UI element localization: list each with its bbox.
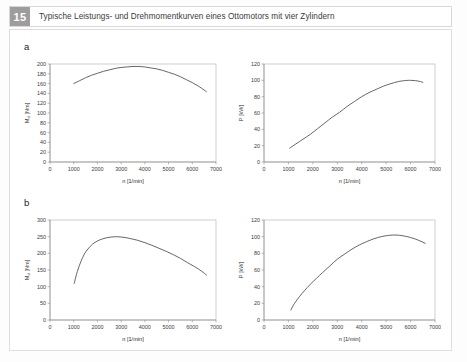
y-tick-label: 60: [40, 130, 46, 136]
y-tick-label: 80: [254, 94, 260, 100]
y-tick-label: 80: [254, 250, 260, 256]
y-axis-label: P [kW]: [238, 261, 244, 278]
panel-a-label: a: [24, 41, 29, 52]
plot-frame: [264, 220, 435, 320]
x-tick-label: 6000: [186, 324, 198, 330]
chart-b-torque: 0100020003000400050006000700005010015020…: [24, 212, 222, 342]
axis-lines: [50, 64, 216, 162]
x-tick-label: 7000: [429, 324, 441, 330]
x-tick-label: 2000: [91, 324, 103, 330]
y-tick-label: 100: [37, 110, 46, 116]
chart-a-power: 0100020003000400050006000700002040608010…: [238, 56, 441, 184]
x-tick-label: 7000: [429, 166, 441, 172]
x-tick-label: 4000: [139, 324, 151, 330]
chart-svg-b-torque: 0100020003000400050006000700005010015020…: [24, 212, 222, 342]
y-tick-label: 50: [40, 300, 46, 306]
figure-caption-text: Typische Leistungs- und Drehmomentkurven…: [30, 7, 451, 26]
plot-frame: [264, 64, 435, 162]
y-tick-label: 0: [257, 317, 260, 323]
y-tick-label: 300: [37, 217, 46, 223]
x-tick-label: 2000: [307, 324, 319, 330]
x-tick-label: 1000: [68, 166, 80, 172]
y-axis-label: P [kW]: [238, 104, 244, 121]
x-tick-label: 6000: [405, 166, 417, 172]
chart-svg-a-torque: 0100020003000400050006000700002040608010…: [24, 56, 222, 184]
y-tick-label: 0: [43, 317, 46, 323]
data-curve: [74, 66, 207, 92]
x-tick-label: 5000: [163, 324, 175, 330]
x-tick-label: 1000: [282, 324, 294, 330]
y-tick-label: 40: [40, 139, 46, 145]
y-tick-label: 120: [251, 61, 260, 67]
y-tick-label: 140: [37, 90, 46, 96]
x-axis-label: n [1/min]: [339, 178, 361, 184]
y-tick-label: 0: [257, 159, 260, 165]
x-tick-label: 0: [263, 324, 266, 330]
x-tick-label: 1000: [68, 324, 80, 330]
y-tick-label: 20: [254, 300, 260, 306]
x-tick-label: 4000: [356, 166, 368, 172]
y-tick-label: 40: [254, 126, 260, 132]
x-tick-label: 6000: [186, 166, 198, 172]
y-tick-label: 80: [40, 120, 46, 126]
y-tick-label: 40: [254, 284, 260, 290]
y-axis-label: Md [Nm]: [24, 102, 31, 123]
y-tick-label: 160: [37, 81, 46, 87]
y-tick-label: 100: [37, 284, 46, 290]
data-curve: [291, 235, 425, 310]
x-tick-label: 4000: [139, 166, 151, 172]
x-tick-label: 3000: [331, 166, 343, 172]
x-tick-label: 1000: [282, 166, 294, 172]
data-curve: [290, 80, 423, 148]
x-tick-label: 2000: [91, 166, 103, 172]
data-curve: [74, 237, 206, 284]
x-tick-label: 3000: [115, 166, 127, 172]
x-tick-label: 2000: [307, 166, 319, 172]
panel-b-label: b: [24, 197, 29, 208]
x-tick-label: 7000: [210, 324, 222, 330]
y-tick-label: 150: [37, 267, 46, 273]
x-tick-label: 0: [263, 166, 266, 172]
y-tick-label: 120: [37, 100, 46, 106]
figure-body: a 01000200030004000500060007000020406080…: [9, 29, 452, 351]
y-axis-label: Md [Nm]: [24, 259, 31, 280]
y-tick-label: 60: [254, 110, 260, 116]
x-tick-label: 4000: [356, 324, 368, 330]
y-tick-label: 100: [251, 234, 260, 240]
x-tick-label: 3000: [331, 324, 343, 330]
panel-a: a 01000200030004000500060007000020406080…: [10, 30, 453, 190]
y-tick-label: 180: [37, 71, 46, 77]
y-tick-label: 20: [254, 143, 260, 149]
y-tick-label: 200: [37, 61, 46, 67]
y-tick-label: 250: [37, 234, 46, 240]
chart-a-torque: 0100020003000400050006000700002040608010…: [24, 56, 222, 184]
y-tick-label: 100: [251, 77, 260, 83]
y-tick-label: 60: [254, 267, 260, 273]
y-tick-label: 0: [43, 159, 46, 165]
x-axis-label: n [1/min]: [122, 336, 144, 342]
chart-svg-b-power: 0100020003000400050006000700002040608010…: [238, 212, 441, 342]
axis-lines: [50, 220, 216, 320]
figure-caption-bar: 15 Typische Leistungs- und Drehmomentkur…: [9, 6, 452, 27]
chart-b-power: 0100020003000400050006000700002040608010…: [238, 212, 441, 342]
plot-frame: [50, 220, 216, 320]
figure-page: 15 Typische Leistungs- und Drehmomentkur…: [0, 0, 467, 362]
x-tick-label: 7000: [210, 166, 222, 172]
x-tick-label: 5000: [380, 166, 392, 172]
panel-b: b 01000200030004000500060007000050100150…: [10, 190, 453, 352]
x-tick-label: 0: [49, 166, 52, 172]
figure-number-badge: 15: [10, 7, 30, 26]
chart-svg-a-power: 0100020003000400050006000700002040608010…: [238, 56, 441, 184]
x-tick-label: 5000: [163, 166, 175, 172]
plot-frame: [50, 64, 216, 162]
y-tick-label: 20: [40, 149, 46, 155]
x-axis-label: n [1/min]: [122, 178, 144, 184]
x-tick-label: 3000: [115, 324, 127, 330]
x-tick-label: 6000: [405, 324, 417, 330]
x-tick-label: 0: [49, 324, 52, 330]
y-tick-label: 120: [251, 217, 260, 223]
x-tick-label: 5000: [380, 324, 392, 330]
y-tick-label: 200: [37, 250, 46, 256]
x-axis-label: n [1/min]: [339, 336, 361, 342]
axis-lines: [264, 64, 435, 162]
